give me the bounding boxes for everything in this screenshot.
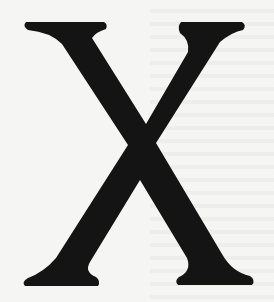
paper-page: X [0,0,274,302]
letter-x-glyph-icon [0,0,274,302]
drop-cap-letter-x: X [0,0,274,302]
